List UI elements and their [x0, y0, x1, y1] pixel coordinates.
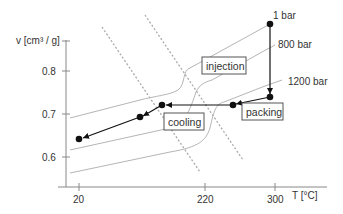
leader-800bar: [262, 45, 275, 52]
isobar-label-1bar: 1 bar: [273, 10, 296, 21]
isobar-label-800bar: 800 bar: [278, 39, 313, 50]
y-tick-label-07: 0.7: [42, 109, 56, 120]
point-packing-start: [267, 94, 274, 101]
x-axis-label: T [°C]: [292, 190, 318, 201]
point-1bar-start: [267, 21, 274, 28]
x-tick-label-220: 220: [197, 194, 214, 205]
point-cooling-mid: [137, 114, 144, 121]
x-tick-label-20: 20: [73, 194, 85, 205]
pvt-diagram: v [cm³ / g] 0.8 0.7 0.6 20 220 300 T [°C…: [0, 0, 343, 214]
point-ejection: [76, 136, 83, 143]
svg-text:cooling: cooling: [168, 116, 201, 128]
phase-box-cooling: cooling: [164, 113, 204, 130]
phase-box-packing: packing: [242, 103, 283, 120]
leader-1200bar: [265, 80, 282, 86]
isobar-label-1200bar: 1200 bar: [288, 76, 328, 87]
y-axis-label: v [cm³ / g]: [16, 35, 60, 46]
svg-text:injection: injection: [206, 60, 245, 72]
x-tick-label-300: 300: [267, 194, 284, 205]
dashed-line-a: [102, 27, 200, 172]
point-packing-end: [230, 102, 237, 109]
y-tick-label-08: 0.8: [42, 66, 56, 77]
y-tick-label-06: 0.6: [42, 152, 56, 163]
dashed-line-b: [145, 15, 243, 160]
point-cooling-start: [159, 102, 166, 109]
process-cool-2: [83, 117, 140, 138]
svg-text:packing: packing: [246, 106, 282, 118]
phase-box-injection: injection: [202, 57, 246, 74]
